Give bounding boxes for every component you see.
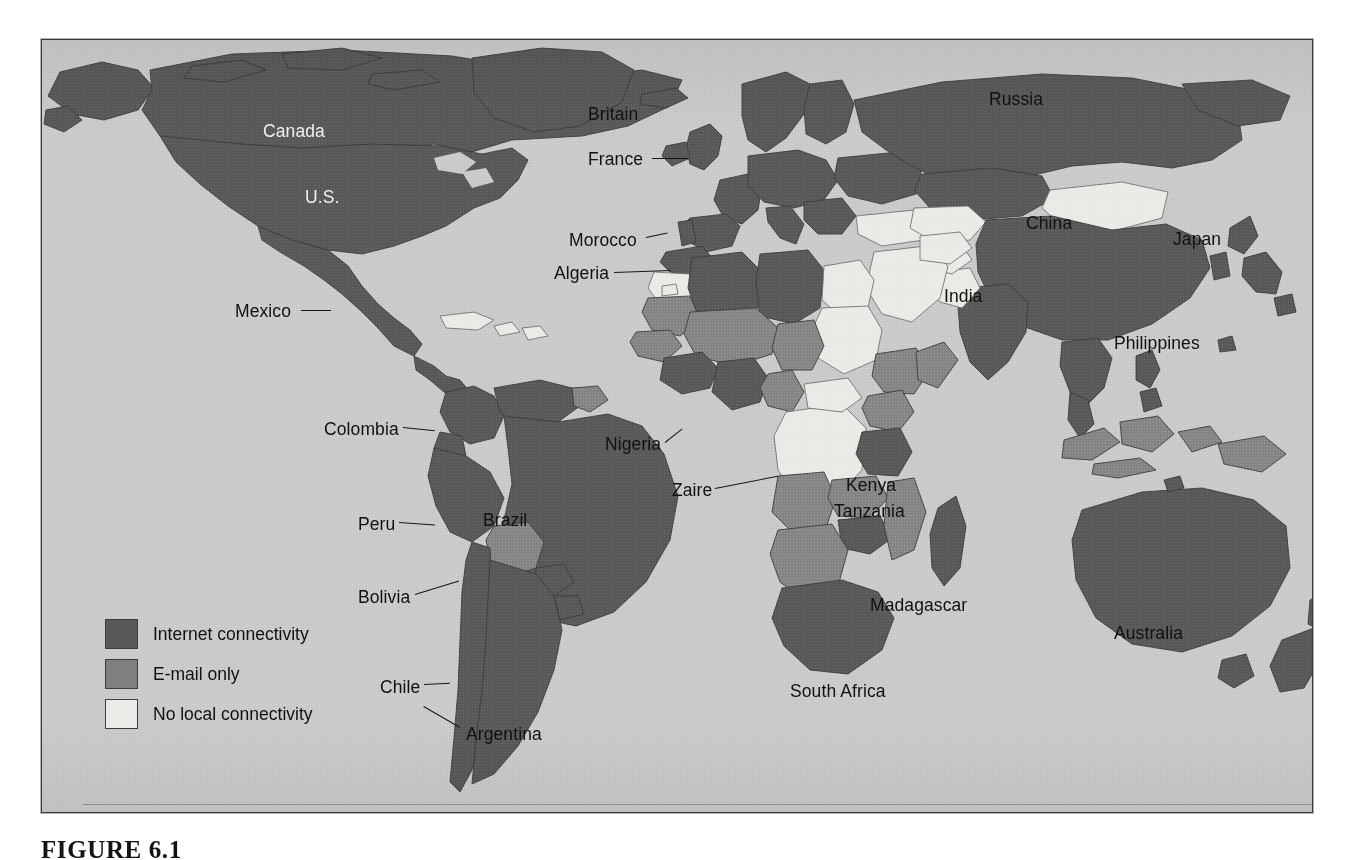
label-colombia: Colombia	[324, 419, 399, 440]
label-russia: Russia	[989, 89, 1043, 110]
legend-swatch-email	[105, 659, 138, 689]
label-china: China	[1026, 213, 1072, 234]
label-chile: Chile	[380, 677, 420, 698]
figure-caption-text: FIGURE 6.1	[41, 836, 182, 860]
legend-label-none: No local connectivity	[153, 704, 313, 725]
legend-swatch-none	[105, 699, 138, 729]
label-mexico-leader	[301, 310, 331, 311]
label-zaire: Zaire	[672, 480, 712, 501]
label-australia: Australia	[1114, 623, 1183, 644]
source-divider	[83, 804, 1313, 805]
region-korea	[1210, 252, 1230, 280]
figure-caption: FIGURE 6.1	[41, 836, 182, 860]
map-legend: Internet connectivity E-mail only No loc…	[105, 614, 313, 734]
region-chad	[772, 320, 824, 370]
legend-item: No local connectivity	[105, 694, 313, 734]
label-japan: Japan	[1173, 229, 1221, 250]
figure-6-1: .net { fill:#585858; stroke:#3b3b3b; str…	[0, 0, 1356, 860]
label-canada: Canada	[263, 121, 325, 142]
region-russia	[854, 74, 1242, 182]
legend-item: E-mail only	[105, 654, 313, 694]
legend-item: Internet connectivity	[105, 614, 313, 654]
label-tanzania: Tanzania	[834, 501, 905, 522]
label-bolivia: Bolivia	[358, 587, 410, 608]
label-philippines: Philippines	[1114, 333, 1200, 354]
label-brazil: Brazil	[483, 510, 527, 531]
label-morocco: Morocco	[569, 230, 637, 251]
label-britain: Britain	[588, 104, 638, 125]
label-argentina: Argentina	[466, 724, 542, 745]
label-algeria: Algeria	[554, 263, 609, 284]
label-nigeria: Nigeria	[605, 434, 661, 455]
legend-label-email: E-mail only	[153, 664, 240, 685]
label-france-leader	[652, 158, 688, 159]
label-south-africa: South Africa	[790, 681, 886, 702]
label-mexico: Mexico	[235, 301, 291, 322]
map-frame: .net { fill:#585858; stroke:#3b3b3b; str…	[41, 39, 1313, 813]
label-us: U.S.	[305, 187, 339, 208]
label-peru: Peru	[358, 514, 395, 535]
label-india: India	[944, 286, 982, 307]
label-kenya: Kenya	[846, 475, 896, 496]
label-madagascar: Madagascar	[870, 595, 967, 616]
legend-swatch-internet	[105, 619, 138, 649]
label-france: France	[588, 149, 643, 170]
legend-label-internet: Internet connectivity	[153, 624, 309, 645]
